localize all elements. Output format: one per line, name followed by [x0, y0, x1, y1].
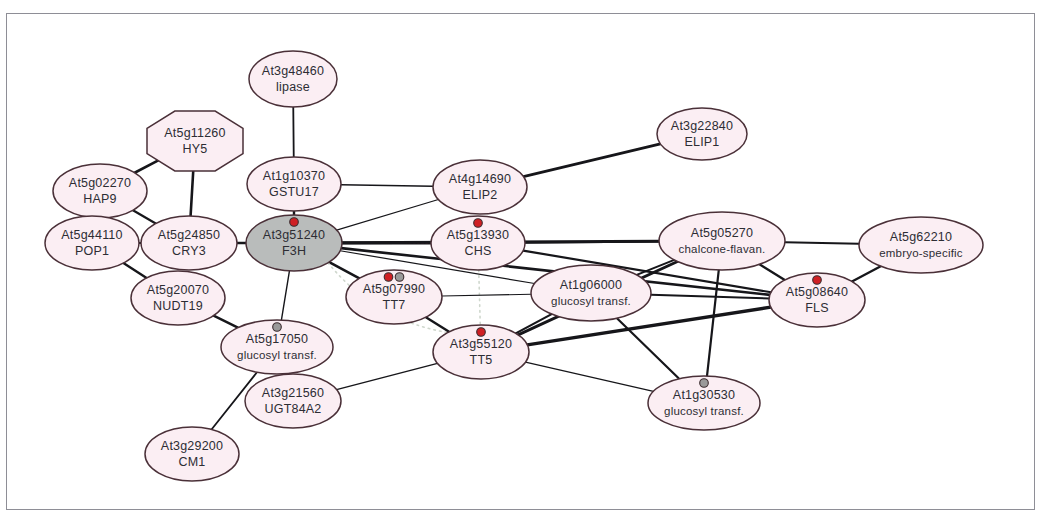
edge	[525, 242, 659, 243]
node-locus-label: At5g20070	[147, 283, 209, 297]
node-gene-name-label: FLS	[805, 301, 829, 315]
edge	[651, 295, 769, 299]
node-locus-label: At1g30530	[673, 388, 735, 402]
edge	[337, 200, 439, 231]
edge	[133, 210, 156, 223]
edge	[852, 266, 881, 281]
graph-node-at1g30530[interactable]: At1g30530glucosyl transf.	[648, 376, 760, 430]
node-locus-label: At5g24850	[158, 228, 220, 242]
marker-grey-icon	[700, 379, 709, 388]
node-gene-name-label: CHS	[465, 244, 492, 258]
node-locus-label: At5g05270	[691, 226, 753, 240]
node-locus-label: At5g17050	[246, 332, 308, 346]
node-locus-label: At1g06000	[560, 278, 622, 292]
node-body[interactable]	[147, 111, 243, 171]
edge	[123, 263, 146, 278]
graph-node-at5g13930[interactable]: At5g13930CHS	[431, 216, 525, 270]
edge	[281, 271, 289, 320]
node-gene-name-label: ELIP1	[684, 135, 719, 149]
graph-node-at5g11260[interactable]: At5g11260HY5	[147, 111, 243, 171]
node-locus-label: At5g62210	[890, 230, 952, 244]
graph-node-at1g06000[interactable]: At1g06000glucosyl transf.	[531, 265, 651, 321]
node-gene-name-label: NUDT19	[153, 299, 203, 313]
node-gene-name-label: embryo-specific	[879, 247, 963, 259]
node-gene-name-label: GSTU17	[269, 185, 319, 199]
node-gene-name-label: POP1	[75, 244, 109, 258]
graph-node-at5g05270[interactable]: At5g05270chalcone-flavan.	[659, 212, 785, 270]
node-body[interactable]	[346, 270, 442, 324]
node-gene-name-label: lipase	[276, 80, 310, 94]
graph-node-at5g24850[interactable]: At5g24850CRY3	[141, 216, 237, 270]
node-gene-name-label: HAP9	[83, 192, 116, 206]
node-gene-name-label: glucosyl transf.	[551, 295, 631, 307]
node-locus-label: At5g02270	[69, 176, 131, 190]
node-body[interactable]	[859, 217, 983, 273]
node-body[interactable]	[141, 216, 237, 270]
edge-dotted	[479, 270, 481, 325]
edge	[707, 270, 719, 376]
graph-node-at3g51240[interactable]: At3g51240F3H	[246, 215, 342, 271]
node-locus-label: At3g22840	[671, 119, 733, 133]
graph-node-at3g48460[interactable]: At3g48460lipase	[249, 51, 337, 107]
graph-node-at5g02270[interactable]: At5g02270HAP9	[53, 164, 147, 218]
edge	[760, 264, 785, 280]
node-locus-label: At1g10370	[263, 169, 325, 183]
node-gene-name-label: F3H	[282, 244, 306, 258]
node-locus-label: At5g08640	[786, 285, 848, 299]
node-body[interactable]	[659, 212, 785, 270]
node-body[interactable]	[249, 51, 337, 107]
graph-node-at5g07990[interactable]: At5g07990TT7	[346, 270, 442, 324]
graph-node-at3g29200[interactable]: At3g29200CM1	[145, 427, 239, 481]
node-gene-name-label: CRY3	[172, 244, 206, 258]
graph-node-at3g22840[interactable]: At3g22840ELIP1	[657, 108, 747, 160]
edge	[442, 294, 531, 296]
graph-node-at4g14690[interactable]: At4g14690ELIP2	[433, 160, 527, 214]
marker-grey-icon	[395, 273, 404, 282]
edge	[191, 171, 194, 216]
marker-red-icon	[474, 219, 483, 228]
node-body[interactable]	[433, 160, 527, 214]
node-locus-label: At4g14690	[449, 172, 511, 186]
node-locus-label: At5g07990	[363, 282, 425, 296]
edge	[525, 362, 653, 391]
node-body[interactable]	[657, 108, 747, 160]
node-gene-name-label: UGT84A2	[265, 402, 322, 416]
node-locus-label: At3g48460	[262, 64, 324, 78]
node-body[interactable]	[245, 374, 341, 428]
marker-red-icon	[813, 276, 822, 285]
node-body[interactable]	[531, 265, 651, 321]
node-gene-name-label: TT7	[383, 298, 406, 312]
marker-red-icon	[290, 218, 299, 227]
node-body[interactable]	[131, 271, 225, 325]
node-gene-name-label: ELIP2	[462, 188, 497, 202]
node-body[interactable]	[247, 157, 341, 211]
edge	[135, 160, 159, 172]
graph-node-at3g21560[interactable]: At3g21560UGT84A2	[245, 374, 341, 428]
graph-node-at3g55120[interactable]: At3g55120TT5	[433, 325, 529, 379]
node-locus-label: At5g13930	[447, 228, 509, 242]
graph-node-at5g62210[interactable]: At5g62210embryo-specific	[859, 217, 983, 273]
edge	[785, 242, 859, 243]
marker-red-icon	[477, 328, 486, 337]
graph-node-at5g20070[interactable]: At5g20070NUDT19	[131, 271, 225, 325]
node-gene-name-label: glucosyl transf.	[664, 405, 744, 417]
node-gene-name-label: chalcone-flavan.	[679, 243, 766, 255]
node-locus-label: At3g51240	[263, 228, 325, 242]
marker-grey-icon	[273, 323, 282, 332]
node-locus-label: At5g44110	[61, 228, 122, 242]
node-gene-name-label: TT5	[470, 353, 493, 367]
edge	[516, 314, 552, 333]
edge	[426, 317, 449, 332]
graph-node-at5g44110[interactable]: At5g44110POP1	[45, 216, 139, 270]
graph-node-at5g17050[interactable]: At5g17050glucosyl transf.	[221, 320, 333, 374]
node-body[interactable]	[53, 164, 147, 218]
interaction-network-graph: At3g48460lipaseAt5g11260HY5At5g02270HAP9…	[0, 0, 1042, 513]
node-body[interactable]	[145, 427, 239, 481]
graph-node-at1g10370[interactable]: At1g10370GSTU17	[247, 157, 341, 211]
edge	[523, 144, 660, 177]
network-figure: At3g48460lipaseAt5g11260HY5At5g02270HAP9…	[0, 0, 1042, 513]
node-body[interactable]	[45, 216, 139, 270]
edge	[337, 363, 438, 389]
node-gene-name-label: HY5	[183, 142, 208, 156]
graph-node-at5g08640[interactable]: At5g08640FLS	[769, 273, 865, 327]
